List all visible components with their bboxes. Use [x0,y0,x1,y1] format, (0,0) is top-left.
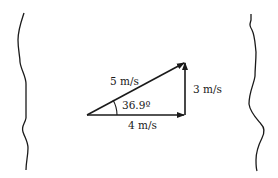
right-riverbank [249,14,264,171]
angle-arc [113,100,117,115]
vertical-vector-label: 3 m/s [193,83,222,95]
left-riverbank [18,13,28,170]
angle-label: 36.9º [122,99,150,111]
horizontal-vector-label: 4 m/s [128,119,157,131]
vector-diagram: 5 m/s 36.9º 4 m/s 3 m/s [0,0,278,178]
resultant-vector-label: 5 m/s [110,75,139,87]
